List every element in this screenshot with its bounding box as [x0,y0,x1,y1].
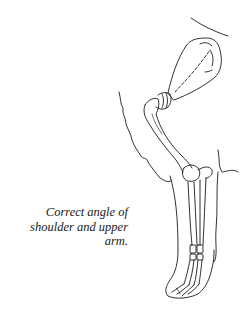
caption-line-3: arm. [10,234,128,249]
figure-caption: Correct angle of shoulder and upper arm. [10,205,128,249]
humerus-bone [144,98,192,172]
chest-fur-outline [119,92,172,182]
forearm-bones [188,178,206,245]
caption-line-1: Correct angle of [10,205,128,220]
rear-fur-outline [214,150,238,262]
foreleg-anatomy-drawing [0,0,247,315]
toe-bones [172,284,199,296]
scapula-bone [168,38,221,100]
illustration-figure: Correct angle of shoulder and upper arm. [0,0,247,315]
carpal-bones [190,245,203,260]
caption-line-2: shoulder and upper [10,220,128,235]
metacarpal-bones [184,260,202,285]
elbow-joint [183,165,213,181]
front-leg-outline [166,176,214,298]
body-outline-top [191,18,228,36]
